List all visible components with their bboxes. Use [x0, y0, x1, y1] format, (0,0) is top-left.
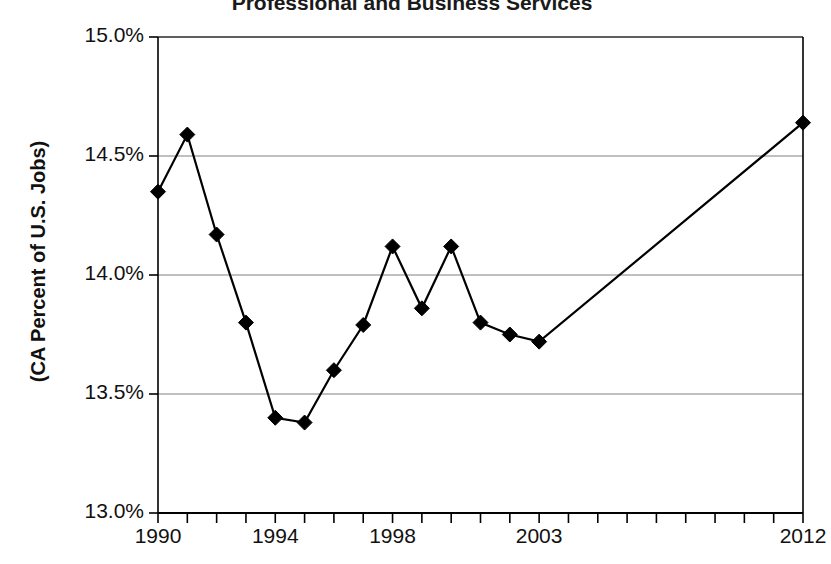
data-point-marker [209, 227, 224, 242]
data-point-markers [151, 115, 811, 430]
data-point-marker [385, 239, 400, 254]
data-point-marker [180, 127, 195, 142]
gridlines [158, 37, 803, 394]
data-point-marker [356, 317, 371, 332]
y-axis-ticks [149, 37, 158, 513]
data-point-marker [502, 327, 517, 342]
data-point-marker [151, 184, 166, 199]
x-axis-tick-label: 1990 [113, 524, 203, 548]
x-axis-tick-label: 1994 [230, 524, 320, 548]
data-point-marker [268, 410, 283, 425]
x-axis-ticks [158, 513, 803, 523]
x-axis-tick-labels: 19901994199820032012 [0, 524, 824, 564]
x-axis-tick-label: 2012 [758, 524, 831, 548]
data-series-line [158, 123, 803, 423]
data-point-marker [414, 301, 429, 316]
x-axis-tick-label: 2003 [494, 524, 584, 548]
data-point-marker [238, 315, 253, 330]
data-point-marker [473, 315, 488, 330]
data-point-marker [326, 363, 341, 378]
data-point-marker [297, 415, 312, 430]
x-axis-tick-label: 1998 [348, 524, 438, 548]
data-point-marker [444, 239, 459, 254]
